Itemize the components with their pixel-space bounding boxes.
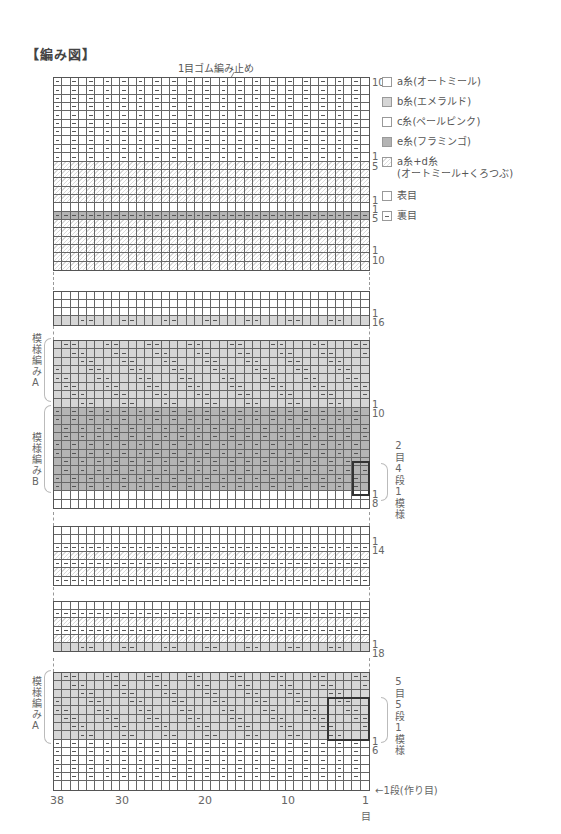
knit-stitch (328, 153, 336, 161)
gap-marker (53, 587, 55, 601)
knit-stitch (54, 568, 62, 576)
knit-stitch (170, 220, 178, 228)
purl-stitch (294, 544, 302, 552)
purl-stitch (245, 610, 253, 618)
legend-item-purl: 裏目 (382, 210, 417, 222)
purl-stitch (253, 610, 261, 618)
purl-stitch (336, 358, 344, 366)
knit-stitch (311, 103, 319, 111)
knit-stitch (361, 552, 369, 560)
knit-stitch (87, 466, 95, 474)
knit-stitch (245, 228, 253, 236)
purl-stitch (294, 458, 302, 466)
knit-stitch (187, 220, 195, 228)
knit-stitch (112, 731, 120, 739)
knit-stitch (71, 458, 79, 466)
knit-stitch (311, 391, 319, 399)
knit-stitch (95, 740, 103, 748)
purl-stitch (261, 458, 269, 466)
knit-stitch (129, 491, 137, 499)
purl-stitch (104, 111, 112, 119)
knit-stitch (261, 773, 269, 781)
knit-stitch (278, 773, 286, 781)
knit-stitch (120, 500, 128, 508)
knit-stitch (361, 103, 369, 111)
purl-stitch (361, 544, 369, 552)
knit-stitch (62, 483, 70, 491)
knit-stitch (253, 195, 261, 203)
knit-stitch (162, 220, 170, 228)
knit-stitch (278, 111, 286, 119)
knit-stitch (87, 527, 95, 535)
purl-stitch (87, 441, 95, 449)
knit-stitch (112, 308, 120, 316)
knit-stitch (253, 635, 261, 643)
knit-stitch (311, 690, 319, 698)
knit-stitch (303, 253, 311, 261)
purl-stitch (352, 153, 360, 161)
knit-stitch (328, 535, 336, 543)
knit-stitch (71, 643, 79, 651)
knit-stitch (62, 220, 70, 228)
knit-stitch (137, 602, 145, 610)
knit-stitch (129, 773, 137, 781)
purl-stitch (71, 441, 79, 449)
knit-stitch (195, 475, 203, 483)
purl-stitch (129, 433, 137, 441)
knit-stitch (253, 162, 261, 170)
knit-stitch (261, 162, 269, 170)
purl-stitch (87, 544, 95, 552)
purl-stitch (319, 441, 327, 449)
knit-stitch (211, 765, 219, 773)
knit-stitch (120, 203, 128, 211)
purl-stitch (228, 560, 236, 568)
knit-stitch (228, 262, 236, 270)
knit-stitch (203, 673, 211, 681)
knit-stitch (137, 527, 145, 535)
knit-stitch (278, 187, 286, 195)
knit-stitch (137, 187, 145, 195)
knit-stitch (228, 731, 236, 739)
knit-stitch (211, 715, 219, 723)
knit-stitch (120, 602, 128, 610)
purl-stitch (286, 95, 294, 103)
purl-stitch (228, 544, 236, 552)
knit-stitch (95, 408, 103, 416)
knit-stitch (361, 262, 369, 270)
purl-stitch (336, 450, 344, 458)
knit-stitch (54, 237, 62, 245)
knit-stitch (228, 366, 236, 374)
knit-stitch (245, 552, 253, 560)
purl-stitch (211, 358, 219, 366)
pattern-b-brace (44, 405, 51, 493)
knit-stitch (95, 643, 103, 651)
knit-stitch (220, 292, 228, 300)
knit-stitch (112, 527, 120, 535)
purl-stitch (236, 416, 244, 424)
purl-stitch (228, 673, 236, 681)
knit-stitch (303, 162, 311, 170)
purl-stitch (178, 466, 186, 474)
purl-stitch (361, 673, 369, 681)
purl-stitch (319, 416, 327, 424)
purl-stitch (352, 120, 360, 128)
knit-stitch (195, 86, 203, 94)
knit-stitch (245, 292, 253, 300)
purl-stitch (336, 120, 344, 128)
knit-stitch (236, 466, 244, 474)
knit-stitch (137, 491, 145, 499)
knit-stitch (245, 78, 253, 86)
knit-stitch (162, 673, 170, 681)
knit-stitch (95, 103, 103, 111)
knit-stitch (270, 458, 278, 466)
knit-stitch (79, 187, 87, 195)
knit-stitch (104, 228, 112, 236)
purl-stitch (336, 748, 344, 756)
purl-stitch (270, 416, 278, 424)
purl-stitch (319, 673, 327, 681)
knit-stitch (178, 95, 186, 103)
purl-stitch (286, 349, 294, 357)
purl-stitch (203, 441, 211, 449)
knit-stitch (336, 552, 344, 560)
knit-stitch (54, 292, 62, 300)
